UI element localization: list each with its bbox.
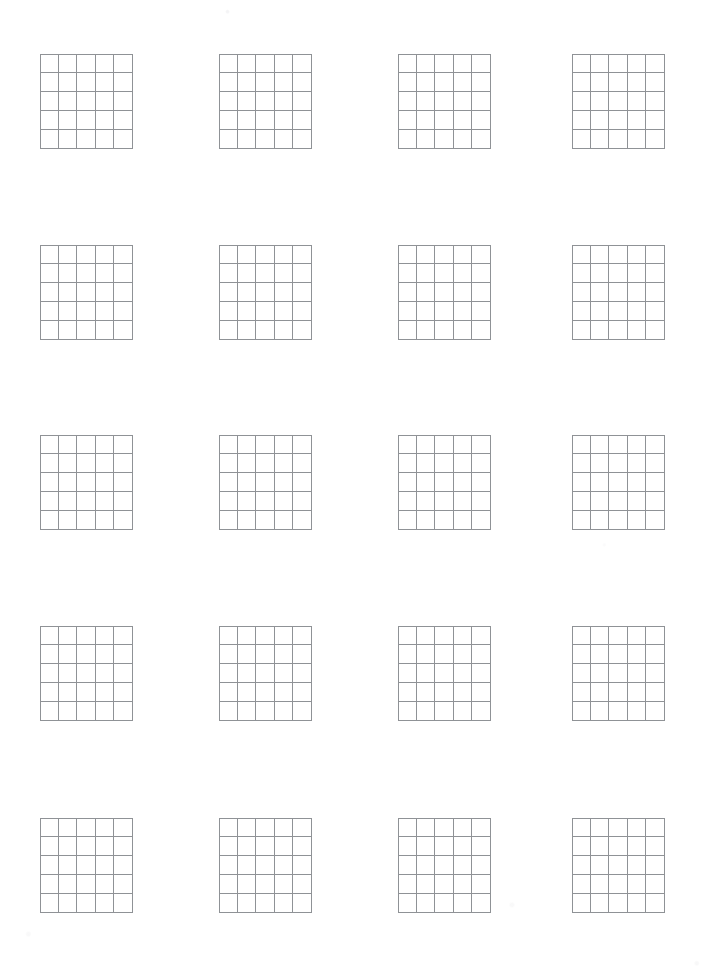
grid-cell[interactable]: [417, 511, 436, 530]
grid-cell[interactable]: [219, 645, 238, 664]
grid-cell[interactable]: [293, 435, 312, 454]
grid-5-3[interactable]: [398, 818, 491, 913]
grid-cell[interactable]: [114, 283, 133, 302]
grid-cell[interactable]: [609, 894, 628, 913]
grid-cell[interactable]: [572, 435, 591, 454]
grid-cell[interactable]: [275, 435, 294, 454]
grid-cell[interactable]: [628, 894, 647, 913]
grid-cell[interactable]: [114, 875, 133, 894]
grid-cell[interactable]: [472, 818, 491, 837]
grid-3-1[interactable]: [40, 435, 133, 530]
grid-cell[interactable]: [628, 702, 647, 721]
grid-cell[interactable]: [114, 264, 133, 283]
grid-cell[interactable]: [572, 111, 591, 130]
grid-cell[interactable]: [40, 683, 59, 702]
grid-cell[interactable]: [472, 54, 491, 73]
grid-cell[interactable]: [114, 645, 133, 664]
grid-cell[interactable]: [454, 664, 473, 683]
grid-cell[interactable]: [435, 875, 454, 894]
grid-cell[interactable]: [40, 473, 59, 492]
grid-cell[interactable]: [591, 454, 610, 473]
grid-cell[interactable]: [114, 856, 133, 875]
grid-cell[interactable]: [114, 702, 133, 721]
grid-cell[interactable]: [398, 664, 417, 683]
grid-cell[interactable]: [219, 626, 238, 645]
grid-cell[interactable]: [293, 818, 312, 837]
grid-cell[interactable]: [472, 73, 491, 92]
grid-cell[interactable]: [417, 54, 436, 73]
grid-cell[interactable]: [256, 130, 275, 149]
grid-cell[interactable]: [96, 837, 115, 856]
grid-cell[interactable]: [628, 321, 647, 340]
grid-cell[interactable]: [293, 626, 312, 645]
grid-cell[interactable]: [40, 894, 59, 913]
grid-cell[interactable]: [591, 645, 610, 664]
grid-cell[interactable]: [219, 245, 238, 264]
grid-cell[interactable]: [591, 264, 610, 283]
grid-4-2[interactable]: [219, 626, 312, 721]
grid-cell[interactable]: [256, 511, 275, 530]
grid-cell[interactable]: [628, 130, 647, 149]
grid-cell[interactable]: [435, 302, 454, 321]
grid-cell[interactable]: [40, 837, 59, 856]
grid-cell[interactable]: [40, 664, 59, 683]
grid-cell[interactable]: [398, 111, 417, 130]
grid-cell[interactable]: [591, 511, 610, 530]
grid-cell[interactable]: [646, 321, 665, 340]
grid-cell[interactable]: [219, 818, 238, 837]
grid-cell[interactable]: [96, 92, 115, 111]
grid-cell[interactable]: [454, 626, 473, 645]
grid-cell[interactable]: [417, 283, 436, 302]
grid-cell[interactable]: [591, 435, 610, 454]
grid-cell[interactable]: [77, 702, 96, 721]
grid-cell[interactable]: [417, 454, 436, 473]
grid-cell[interactable]: [59, 245, 78, 264]
grid-cell[interactable]: [398, 626, 417, 645]
grid-cell[interactable]: [646, 894, 665, 913]
grid-cell[interactable]: [40, 245, 59, 264]
grid-cell[interactable]: [77, 683, 96, 702]
grid-cell[interactable]: [256, 894, 275, 913]
grid-cell[interactable]: [435, 856, 454, 875]
grid-cell[interactable]: [454, 818, 473, 837]
grid-cell[interactable]: [417, 473, 436, 492]
grid-cell[interactable]: [472, 92, 491, 111]
grid-cell[interactable]: [77, 473, 96, 492]
grid-cell[interactable]: [275, 92, 294, 111]
grid-cell[interactable]: [96, 492, 115, 511]
grid-cell[interactable]: [275, 492, 294, 511]
grid-cell[interactable]: [609, 283, 628, 302]
grid-cell[interactable]: [238, 111, 257, 130]
grid-cell[interactable]: [591, 626, 610, 645]
grid-cell[interactable]: [472, 645, 491, 664]
grid-cell[interactable]: [454, 511, 473, 530]
grid-cell[interactable]: [472, 264, 491, 283]
grid-cell[interactable]: [77, 626, 96, 645]
grid-cell[interactable]: [398, 73, 417, 92]
grid-cell[interactable]: [435, 435, 454, 454]
grid-cell[interactable]: [646, 92, 665, 111]
grid-cell[interactable]: [609, 454, 628, 473]
grid-cell[interactable]: [219, 492, 238, 511]
grid-cell[interactable]: [256, 626, 275, 645]
grid-cell[interactable]: [472, 837, 491, 856]
grid-cell[interactable]: [256, 473, 275, 492]
grid-cell[interactable]: [96, 683, 115, 702]
grid-cell[interactable]: [454, 683, 473, 702]
grid-cell[interactable]: [275, 54, 294, 73]
grid-cell[interactable]: [238, 626, 257, 645]
grid-cell[interactable]: [398, 473, 417, 492]
grid-cell[interactable]: [114, 92, 133, 111]
grid-cell[interactable]: [646, 435, 665, 454]
grid-cell[interactable]: [435, 626, 454, 645]
grid-cell[interactable]: [59, 818, 78, 837]
grid-cell[interactable]: [454, 702, 473, 721]
grid-cell[interactable]: [96, 664, 115, 683]
grid-1-2[interactable]: [219, 54, 312, 149]
grid-cell[interactable]: [275, 511, 294, 530]
grid-cell[interactable]: [591, 283, 610, 302]
grid-4-3[interactable]: [398, 626, 491, 721]
grid-cell[interactable]: [293, 894, 312, 913]
grid-cell[interactable]: [646, 818, 665, 837]
grid-cell[interactable]: [238, 245, 257, 264]
